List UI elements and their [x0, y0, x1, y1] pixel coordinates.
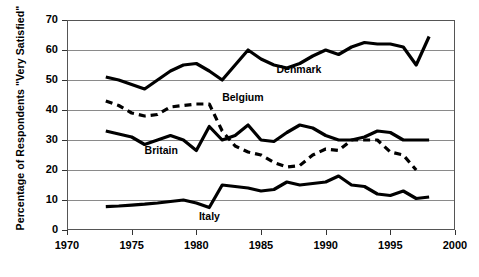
series-line-denmark [106, 37, 429, 90]
y-tick-mark [62, 140, 67, 141]
y-tick-mark [62, 20, 67, 21]
chart-container: Percentage of Respondents "Very Satisfie… [0, 0, 479, 277]
x-tick-label: 1975 [109, 239, 155, 251]
x-tick-label: 1980 [173, 239, 219, 251]
x-tick-mark [196, 230, 197, 235]
y-tick-mark [62, 170, 67, 171]
series-label-italy: Italy [199, 210, 220, 222]
y-tick-label: 20 [30, 164, 58, 175]
y-tick-mark [62, 110, 67, 111]
plot-area: DenmarkBelgiumBritainItaly [67, 20, 455, 230]
y-tick-label: 40 [30, 104, 58, 115]
y-tick-mark [62, 230, 67, 231]
y-axis-tick-labels: 010203040506070 [30, 0, 58, 277]
x-tick-label: 2000 [432, 239, 478, 251]
x-tick-label: 1970 [44, 239, 90, 251]
y-tick-mark [62, 50, 67, 51]
x-tick-label: 1995 [367, 239, 413, 251]
y-tick-mark [62, 200, 67, 201]
x-tick-mark [390, 230, 391, 235]
y-tick-mark [62, 80, 67, 81]
series-line-italy [106, 176, 429, 208]
x-tick-label: 1985 [238, 239, 284, 251]
y-tick-label: 0 [30, 224, 58, 235]
y-tick-label: 10 [30, 194, 58, 205]
y-tick-label: 30 [30, 134, 58, 145]
x-tick-label: 1990 [303, 239, 349, 251]
x-tick-mark [132, 230, 133, 235]
y-axis-title: Percentage of Respondents "Very Satisfie… [14, 2, 26, 234]
y-tick-label: 50 [30, 74, 58, 85]
series-label-belgium: Belgium [222, 91, 263, 103]
x-tick-mark [326, 230, 327, 235]
y-tick-label: 70 [30, 14, 58, 25]
x-tick-mark [261, 230, 262, 235]
x-tick-mark [455, 230, 456, 235]
series-lines [67, 20, 455, 230]
y-tick-label: 60 [30, 44, 58, 55]
series-label-britain: Britain [145, 144, 178, 156]
x-tick-mark [67, 230, 68, 235]
series-label-denmark: Denmark [277, 63, 322, 75]
